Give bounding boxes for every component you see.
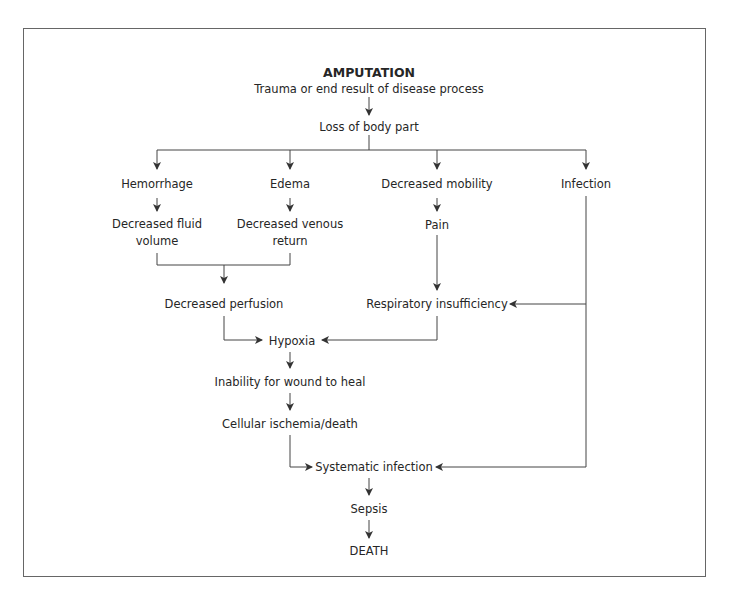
node-pain: Pain [424, 217, 450, 233]
node-loss-of-body-part: Loss of body part [318, 119, 419, 135]
node-decreased-venous-return-line2: return [271, 233, 308, 249]
node-decreased-perfusion: Decreased perfusion [164, 296, 285, 312]
diagram-title: AMPUTATION [322, 65, 416, 81]
node-trauma: Trauma or end result of disease process [253, 81, 485, 97]
node-decreased-venous-return-line1: Decreased venous [236, 216, 344, 232]
node-sepsis: Sepsis [350, 501, 389, 517]
node-decreased-fluid-volume-line1: Decreased fluid [111, 216, 203, 232]
node-decreased-fluid-volume-line2: volume [135, 233, 180, 249]
node-edema: Edema [269, 176, 311, 192]
node-systematic-infection: Systematic infection [314, 459, 434, 475]
node-inability-to-heal: Inability for wound to heal [214, 374, 367, 390]
node-decreased-mobility: Decreased mobility [380, 176, 493, 192]
node-hemorrhage: Hemorrhage [120, 176, 194, 192]
node-hypoxia: Hypoxia [268, 333, 316, 349]
node-cellular-ischemia: Cellular ischemia/death [221, 416, 359, 432]
node-death: DEATH [349, 543, 390, 559]
node-respiratory-insufficiency: Respiratory insufficiency [365, 296, 508, 312]
node-infection: Infection [560, 176, 612, 192]
